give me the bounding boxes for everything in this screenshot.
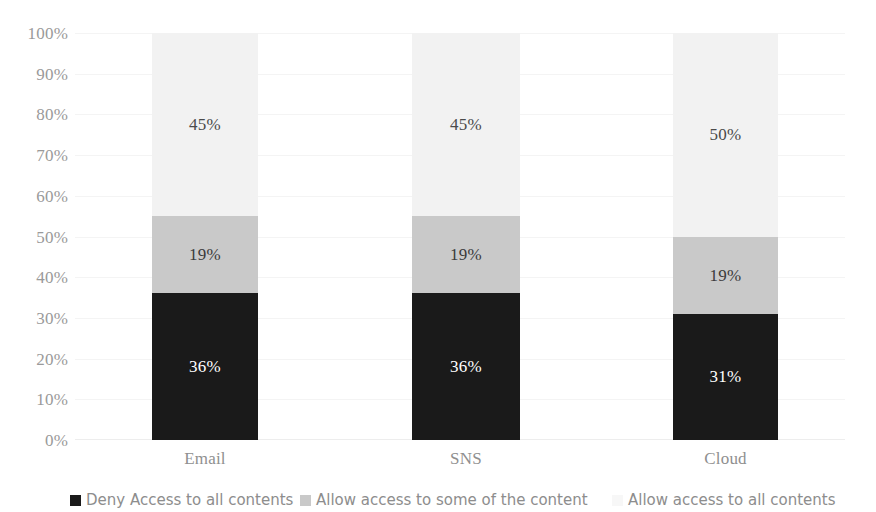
legend-item-allow-all[interactable]: Allow access to all contents [612, 489, 836, 512]
bar-value-email-deny: 36% [189, 358, 221, 375]
bar-sns[interactable]: 45% 19% 36% [412, 33, 520, 440]
y-axis-tick-60: 60% [0, 187, 68, 204]
legend-swatch-icon-allow-all [612, 495, 623, 506]
y-axis-tick-20: 20% [0, 350, 68, 367]
bar-segment-sns-allow-all[interactable]: 45% [412, 33, 520, 216]
y-axis-tick-80: 80% [0, 106, 68, 123]
y-axis-tick-90: 90% [0, 65, 68, 82]
bar-segment-email-deny[interactable]: 36% [152, 293, 258, 440]
legend-swatch-icon-allow-some [300, 495, 311, 506]
y-axis-tick-0: 0% [0, 432, 68, 449]
bar-segment-sns-allow-some[interactable]: 19% [412, 216, 520, 293]
legend-item-allow-some[interactable]: Allow access to some of the content [300, 489, 588, 512]
category-label-email: Email [152, 450, 258, 467]
legend-item-deny-access[interactable]: Deny Access to all contents [70, 489, 293, 512]
bar-segment-cloud-allow-all[interactable]: 50% [673, 33, 778, 237]
legend-label-allow-some: Allow access to some of the content [316, 489, 588, 512]
chart-legend: Deny Access to all contents Allow access… [0, 489, 876, 512]
legend-label-allow-all: Allow access to all contents [628, 489, 836, 512]
bar-value-cloud-allow-all: 50% [710, 126, 742, 143]
y-axis-tick-10: 10% [0, 391, 68, 408]
bar-cloud[interactable]: 50% 19% 31% [673, 33, 778, 440]
y-axis-tick-50: 50% [0, 228, 68, 245]
plot-area: 45% 19% 36% 45% 19% 36% [75, 33, 845, 440]
bar-segment-email-allow-some[interactable]: 19% [152, 216, 258, 293]
bar-value-cloud-allow-some: 19% [710, 267, 742, 284]
y-axis: 100% 90% 80% 70% 60% 50% 40% 30% 20% 10%… [0, 33, 68, 440]
category-label-cloud: Cloud [673, 450, 778, 467]
y-axis-tick-100: 100% [0, 25, 68, 42]
legend-label-deny: Deny Access to all contents [86, 489, 293, 512]
bar-value-sns-deny: 36% [450, 358, 482, 375]
bar-value-cloud-deny: 31% [710, 368, 742, 385]
y-axis-tick-40: 40% [0, 269, 68, 286]
bar-group-sns[interactable]: 45% 19% 36% [412, 33, 520, 440]
y-axis-tick-30: 30% [0, 309, 68, 326]
category-label-sns: SNS [412, 450, 520, 467]
bar-segment-cloud-allow-some[interactable]: 19% [673, 237, 778, 314]
bar-group-email[interactable]: 45% 19% 36% [152, 33, 258, 440]
bar-value-sns-allow-some: 19% [450, 246, 482, 263]
bar-segment-email-allow-all[interactable]: 45% [152, 33, 258, 216]
bar-segment-sns-deny[interactable]: 36% [412, 293, 520, 440]
stacked-bar-chart: 100% 90% 80% 70% 60% 50% 40% 30% 20% 10%… [0, 0, 876, 512]
bar-segment-cloud-deny[interactable]: 31% [673, 314, 778, 440]
y-axis-tick-70: 70% [0, 147, 68, 164]
bar-group-cloud[interactable]: 50% 19% 31% [673, 33, 778, 440]
bar-value-sns-allow-all: 45% [450, 116, 482, 133]
legend-swatch-icon-deny [70, 495, 81, 506]
bar-value-email-allow-some: 19% [189, 246, 221, 263]
bar-value-email-allow-all: 45% [189, 116, 221, 133]
bar-email[interactable]: 45% 19% 36% [152, 33, 258, 440]
